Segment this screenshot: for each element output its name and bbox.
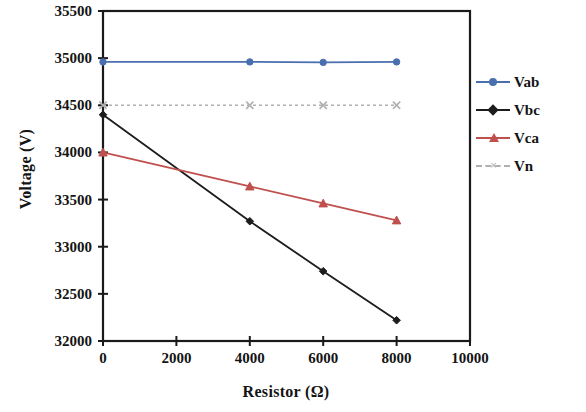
plot-frame (103, 11, 470, 341)
legend-label: Vbc (514, 102, 540, 119)
series-Vab (100, 59, 400, 66)
data-point-marker (393, 59, 399, 65)
series-Vbc (99, 111, 400, 324)
legend-item-vab[interactable]: Vab (476, 68, 586, 96)
legend-label: Vca (514, 130, 539, 147)
series-Vca (99, 148, 401, 224)
legend-item-vca[interactable]: Vca (476, 124, 586, 152)
legend-marker-diamond-icon (487, 104, 498, 115)
legend-item-vn[interactable]: ×Vn (476, 152, 586, 180)
series-Vn (99, 102, 400, 109)
data-point-marker (100, 59, 106, 65)
chart-legend: VabVbcVca×Vn (476, 68, 586, 180)
legend-label: Vn (514, 158, 533, 175)
chart-figure: Voltage (V) 3200032500330003350034000345… (0, 0, 586, 412)
legend-marker-triangle-icon (489, 133, 499, 142)
data-point-marker (393, 102, 400, 109)
legend-key-vbc (476, 103, 510, 117)
legend-key-vn: × (476, 159, 510, 173)
legend-item-vbc[interactable]: Vbc (476, 96, 586, 124)
data-point-marker (247, 59, 253, 65)
plot-area (0, 0, 586, 412)
legend-marker-circle-icon (489, 78, 497, 86)
legend-label: Vab (514, 74, 539, 91)
legend-marker-x-icon: × (488, 160, 499, 171)
legend-key-vab (476, 75, 510, 89)
legend-key-vca (476, 131, 510, 145)
data-point-marker (320, 59, 326, 65)
